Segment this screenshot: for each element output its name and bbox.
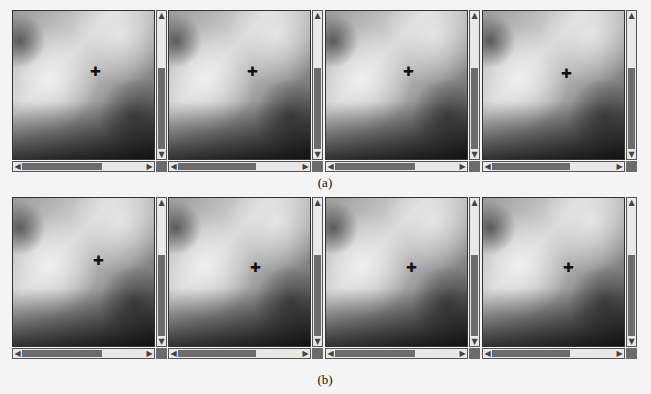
scroll-right-arrow-icon[interactable]: ▶ [145,349,154,358]
vertical-scrollbar[interactable]: ▲ ▼ [469,197,480,347]
horizontal-scrollbar[interactable]: ◀ ▶ [12,348,155,359]
vertical-scrollbar[interactable]: ▲ ▼ [156,197,167,347]
vertical-scroll-thumb[interactable] [628,255,635,336]
vertical-scroll-thumb[interactable] [314,68,321,149]
scroll-down-arrow-icon[interactable]: ▼ [157,337,166,346]
scroll-right-arrow-icon[interactable]: ▶ [458,162,467,171]
crosshair-marker-icon: ✚ [93,254,104,267]
scroll-down-arrow-icon[interactable]: ▼ [313,337,322,346]
horizontal-scrollbar[interactable]: ◀ ▶ [482,161,625,172]
horizontal-scroll-thumb[interactable] [492,350,570,357]
grayscale-image [326,198,468,347]
crosshair-marker-icon: ✚ [561,67,572,80]
horizontal-scrollbar[interactable]: ◀ ▶ [325,348,468,359]
scroll-left-arrow-icon[interactable]: ◀ [169,162,178,171]
horizontal-scroll-thumb[interactable] [178,350,256,357]
scroll-left-arrow-icon[interactable]: ◀ [326,349,335,358]
image-canvas[interactable]: ✚ [168,10,311,160]
figure-caption-a: (a) [305,175,345,191]
crosshair-marker-icon: ✚ [563,261,574,274]
grayscale-image [13,11,155,160]
scrollbar-corner [626,348,637,359]
vertical-scroll-thumb[interactable] [471,255,478,336]
vertical-scroll-thumb[interactable] [158,68,165,149]
vertical-scrollbar[interactable]: ▲ ▼ [156,10,167,160]
scrollbar-corner [469,348,480,359]
grayscale-image [13,198,155,347]
scroll-down-arrow-icon[interactable]: ▼ [627,150,636,159]
image-canvas[interactable]: ✚ [482,197,625,347]
vertical-scroll-thumb[interactable] [314,255,321,336]
horizontal-scroll-thumb[interactable] [335,350,415,357]
scrollbar-corner [312,348,323,359]
scroll-down-arrow-icon[interactable]: ▼ [157,150,166,159]
horizontal-scrollbar[interactable]: ◀ ▶ [168,161,311,172]
scroll-right-arrow-icon[interactable]: ▶ [615,349,624,358]
scrollbar-corner [156,348,167,359]
scroll-down-arrow-icon[interactable]: ▼ [313,150,322,159]
scrollbar-corner [156,161,167,172]
horizontal-scrollbar[interactable]: ◀ ▶ [168,348,311,359]
vertical-scroll-thumb[interactable] [471,68,478,149]
scroll-up-arrow-icon[interactable]: ▲ [313,198,322,207]
vertical-scrollbar[interactable]: ▲ ▼ [626,10,637,160]
image-canvas[interactable]: ✚ [168,197,311,347]
scroll-right-arrow-icon[interactable]: ▶ [301,162,310,171]
horizontal-scrollbar[interactable]: ◀ ▶ [12,161,155,172]
horizontal-scroll-thumb[interactable] [335,163,415,170]
vertical-scrollbar[interactable]: ▲ ▼ [312,10,323,160]
image-canvas[interactable]: ✚ [325,197,468,347]
scroll-up-arrow-icon[interactable]: ▲ [157,198,166,207]
scroll-up-arrow-icon[interactable]: ▲ [470,11,479,20]
crosshair-marker-icon: ✚ [406,261,417,274]
vertical-scroll-thumb[interactable] [628,68,635,149]
grayscale-image [483,11,625,160]
scroll-left-arrow-icon[interactable]: ◀ [169,349,178,358]
scrollbar-corner [626,161,637,172]
scroll-left-arrow-icon[interactable]: ◀ [326,162,335,171]
vertical-scrollbar[interactable]: ▲ ▼ [312,197,323,347]
scroll-up-arrow-icon[interactable]: ▲ [157,11,166,20]
grayscale-image [169,11,311,160]
horizontal-scrollbar[interactable]: ◀ ▶ [325,161,468,172]
scroll-down-arrow-icon[interactable]: ▼ [470,150,479,159]
horizontal-scroll-thumb[interactable] [178,163,256,170]
scrollbar-corner [312,161,323,172]
image-canvas[interactable]: ✚ [12,197,155,347]
scroll-left-arrow-icon[interactable]: ◀ [13,162,22,171]
image-viewer-a1: ✚ ▲ ▼ ◀ ▶ [12,10,167,172]
horizontal-scroll-thumb[interactable] [492,163,570,170]
scroll-up-arrow-icon[interactable]: ▲ [627,11,636,20]
crosshair-marker-icon: ✚ [90,65,101,78]
scroll-left-arrow-icon[interactable]: ◀ [13,349,22,358]
scroll-right-arrow-icon[interactable]: ▶ [301,349,310,358]
image-canvas[interactable]: ✚ [482,10,625,160]
figure-caption-b: (b) [305,372,345,388]
scroll-left-arrow-icon[interactable]: ◀ [483,349,492,358]
scrollbar-corner [469,161,480,172]
vertical-scroll-thumb[interactable] [158,255,165,336]
scroll-up-arrow-icon[interactable]: ▲ [627,198,636,207]
crosshair-marker-icon: ✚ [250,261,261,274]
scroll-right-arrow-icon[interactable]: ▶ [615,162,624,171]
grayscale-image [483,198,625,347]
image-canvas[interactable]: ✚ [12,10,155,160]
scroll-down-arrow-icon[interactable]: ▼ [470,337,479,346]
horizontal-scroll-thumb[interactable] [22,350,102,357]
crosshair-marker-icon: ✚ [403,65,414,78]
scroll-right-arrow-icon[interactable]: ▶ [145,162,154,171]
vertical-scrollbar[interactable]: ▲ ▼ [469,10,480,160]
image-viewer-b4: ✚ ▲ ▼ ◀ ▶ [482,197,637,359]
grayscale-image [169,198,311,347]
horizontal-scrollbar[interactable]: ◀ ▶ [482,348,625,359]
scroll-right-arrow-icon[interactable]: ▶ [458,349,467,358]
scroll-up-arrow-icon[interactable]: ▲ [470,198,479,207]
image-canvas[interactable]: ✚ [325,10,468,160]
scroll-down-arrow-icon[interactable]: ▼ [627,337,636,346]
vertical-scrollbar[interactable]: ▲ ▼ [626,197,637,347]
image-viewer-b3: ✚ ▲ ▼ ◀ ▶ [325,197,480,359]
scroll-up-arrow-icon[interactable]: ▲ [313,11,322,20]
scroll-left-arrow-icon[interactable]: ◀ [483,162,492,171]
horizontal-scroll-thumb[interactable] [22,163,102,170]
crosshair-marker-icon: ✚ [247,65,258,78]
